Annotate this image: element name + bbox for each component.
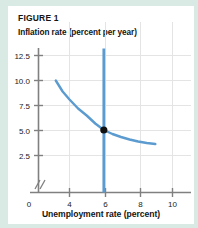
origin-label: 0 xyxy=(27,200,32,209)
x-tick-label-10: 10 xyxy=(168,200,177,209)
x-axis-title: Unemployment rate (percent) xyxy=(8,209,194,219)
figure-panel: FIGURE 1 Inflation rate (percent per yea… xyxy=(8,6,194,224)
y-tick-label-10-0: 10.0 xyxy=(14,77,30,86)
x-tick-label-6: 6 xyxy=(103,200,108,209)
y-tick-label-2-5: 2.5 xyxy=(19,152,31,161)
equilibrium-point-marker xyxy=(100,126,107,133)
plot-area: 12.5 10.0 7.5 5.0 2.5 0 4 6 8 10 xyxy=(8,6,194,224)
y-tick-label-5-0: 5.0 xyxy=(19,127,31,136)
x-tick-label-8: 8 xyxy=(138,200,143,209)
y-tick-label-12-5: 12.5 xyxy=(14,52,30,61)
x-tick-label-4: 4 xyxy=(67,200,72,209)
vertical-gridlines xyxy=(70,22,173,193)
y-tick-label-7-5: 7.5 xyxy=(19,102,31,111)
axis-break-marks xyxy=(35,180,45,189)
horizontal-gridlines xyxy=(39,56,192,156)
